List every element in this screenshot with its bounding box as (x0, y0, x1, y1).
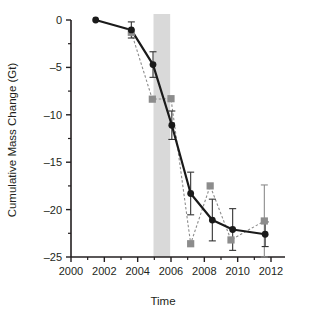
x-tick-label: 2000 (59, 265, 83, 277)
black-circle-marker (128, 27, 135, 34)
chart-axes (71, 20, 285, 257)
black-series-path (96, 20, 266, 234)
gray-square-marker (187, 240, 194, 247)
gray-square-marker (227, 236, 234, 243)
x-tick-label: 2006 (159, 265, 183, 277)
black-circle-marker (168, 122, 175, 129)
black-circle-marker (229, 226, 236, 233)
x-tick-label: 2010 (225, 265, 249, 277)
cumulative-mass-change-chart: 2000200220042006200820102012 0–5–10–15–2… (0, 0, 321, 317)
x-tick-label: 2004 (125, 265, 149, 277)
y-tick-label: –15 (44, 156, 62, 168)
x-tick-label: 2012 (259, 265, 283, 277)
x-axis-title: Time (150, 295, 175, 307)
x-tick-label: 2002 (92, 265, 116, 277)
gray-square-marker (167, 95, 174, 102)
x-tick-label: 2008 (192, 265, 216, 277)
black-circles-line (96, 20, 266, 234)
y-tick-labels: 0–5–10–15–20–25 (44, 14, 62, 263)
x-tick-labels: 2000200220042006200820102012 (59, 265, 283, 277)
black-circles-markers (92, 17, 268, 238)
y-tick-label: –25 (44, 251, 62, 263)
y-axis-title: Cumulative Mass Change (Gt) (6, 62, 18, 217)
black-circle-marker (262, 231, 269, 238)
gray-square-marker (149, 96, 156, 103)
black-circle-marker (209, 217, 216, 224)
gray-square-marker (261, 217, 268, 224)
y-tick-label: –5 (50, 61, 62, 73)
highlight-band (154, 14, 171, 257)
y-tick-label: 0 (56, 14, 62, 26)
black-circle-marker (187, 190, 194, 197)
highlight-band (154, 14, 171, 257)
gray-squares-markers (128, 29, 268, 248)
figure-container: 2000200220042006200820102012 0–5–10–15–2… (0, 0, 321, 317)
gray-square-marker (207, 182, 214, 189)
y-tick-label: –10 (44, 109, 62, 121)
black-circle-marker (150, 61, 157, 68)
y-tick-label: –20 (44, 204, 62, 216)
black-circle-marker (92, 17, 99, 24)
